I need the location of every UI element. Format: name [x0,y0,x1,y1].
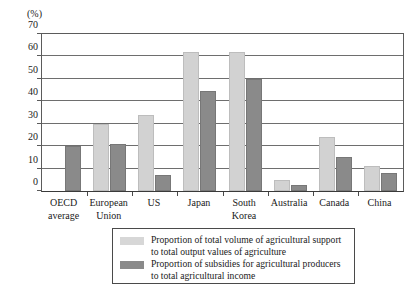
y-axis-tick-labels: 010203040506070 [0,33,38,192]
bar-group [42,34,87,191]
x-axis-tick-label-line: European [86,196,131,209]
x-axis-tick-labels: OECDaverageEuropeanUnionUSJapanSouthKore… [41,196,404,228]
bar-group [177,34,222,191]
x-axis-tick-label-line: OECD [41,196,86,209]
bar [246,79,262,191]
bar-chart: (%) 010203040506070 OECDaverageEuropeanU… [0,0,416,302]
legend-label-support-line1: Proportion of total volume of agricultur… [151,234,347,246]
y-axis-tick-label: 0 [4,177,38,187]
bar [381,173,397,191]
legend-label-subsidies-line2: to total agricultural income [151,270,347,282]
x-axis-tick-label: SouthKorea [222,196,267,222]
y-axis-tick-label: 10 [4,155,38,165]
y-axis-tick-label: 40 [4,87,38,97]
y-axis-tick-label: 60 [4,42,38,52]
x-axis-tick-label: Australia [267,196,312,209]
bar [291,185,307,191]
bar [65,146,81,191]
y-axis-tick-label: 20 [4,132,38,142]
y-axis-tick-mark [37,100,41,101]
y-axis-tick-mark [37,78,41,79]
y-axis-tick-mark [37,55,41,56]
legend-swatch-dark-icon [120,261,144,269]
y-axis-tick-mark [37,168,41,169]
legend-label-support-line2: to total output values of agriculture [151,246,347,258]
bar-group [132,34,177,191]
bar [274,180,290,191]
bar [155,175,171,191]
legend-item-support: Proportion of total volume of agricultur… [120,234,347,257]
bar [183,52,199,191]
x-axis-tick-label-line: Canada [312,196,357,209]
bar-group [313,34,358,191]
x-axis-tick-label-line: Union [86,209,131,222]
bar [364,166,380,191]
bar [200,91,216,191]
bar-series-layer [42,34,403,191]
x-axis-tick-label: Canada [312,196,357,209]
x-axis-tick-label-line: US [131,196,176,209]
legend-label-subsidies-line1: Proportion of subsidies for agricultural… [151,258,347,270]
x-axis-tick-label-line: Korea [222,209,267,222]
x-axis-tick-label: EuropeanUnion [86,196,131,222]
x-axis-tick-label: US [131,196,176,209]
legend-swatch-light-icon [120,237,144,245]
bar-group [87,34,132,191]
bar-group [268,34,313,191]
y-axis-tick-mark [37,123,41,124]
bar [138,115,154,191]
y-axis-tick-label: 30 [4,110,38,120]
x-axis-tick-label-line: Japan [176,196,221,209]
y-axis-tick-label: 50 [4,65,38,75]
legend: Proportion of total volume of agricultur… [112,228,355,284]
y-axis-tick-label: 70 [4,20,38,30]
bar [229,52,245,191]
y-axis-tick-mark [37,190,41,191]
bar [319,137,335,191]
x-axis-tick-label-line: average [41,209,86,222]
x-axis-tick-label-line: Australia [267,196,312,209]
x-axis-tick-label: Japan [176,196,221,209]
legend-label-subsidies: Proportion of subsidies for agricultural… [151,258,347,281]
legend-item-subsidies: Proportion of subsidies for agricultural… [120,258,347,281]
y-axis-tick-mark [37,145,41,146]
bar-group [223,34,268,191]
y-axis-tick-mark [37,33,41,34]
x-axis-tick-label: OECDaverage [41,196,86,222]
legend-label-support: Proportion of total volume of agricultur… [151,234,347,257]
bar [110,144,126,191]
bar-group [358,34,403,191]
x-axis-tick-label-line: China [357,196,402,209]
x-axis-tick-label: China [357,196,402,209]
x-axis-tick-label-line: South [222,196,267,209]
bar [93,124,109,191]
bar [336,157,352,191]
